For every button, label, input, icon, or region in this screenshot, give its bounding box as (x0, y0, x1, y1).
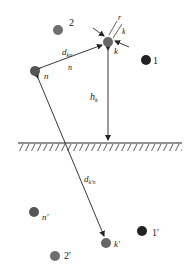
label-2-image: 2' (64, 250, 71, 261)
label-r: r (118, 13, 122, 22)
node-2-image (50, 251, 60, 261)
label-k: k (114, 46, 119, 56)
node-2 (53, 25, 63, 35)
label-1-image: 1' (152, 227, 159, 238)
ground-plane (18, 143, 182, 151)
node-n (30, 66, 40, 76)
node-n-image (29, 207, 39, 217)
label-k-top: k (122, 27, 126, 36)
label-1: 1 (153, 55, 158, 66)
node-k-image (101, 238, 111, 248)
node-1-image (137, 226, 147, 236)
label-2: 2 (69, 17, 74, 28)
label-n-mid: n (68, 63, 72, 72)
diagram-canvas: 2 1 r k k dkn n n hk dk'n n' k' 1' 2' (0, 0, 193, 276)
label-d-kn: dkn (62, 47, 72, 58)
node-k (103, 37, 113, 47)
label-d-kprime-n: dk'n (84, 174, 95, 185)
label-n: n (44, 71, 49, 81)
node-1 (141, 55, 151, 65)
label-h-k: hk (90, 91, 98, 103)
label-n-image: n' (42, 212, 50, 222)
label-k-image: k' (114, 239, 121, 249)
